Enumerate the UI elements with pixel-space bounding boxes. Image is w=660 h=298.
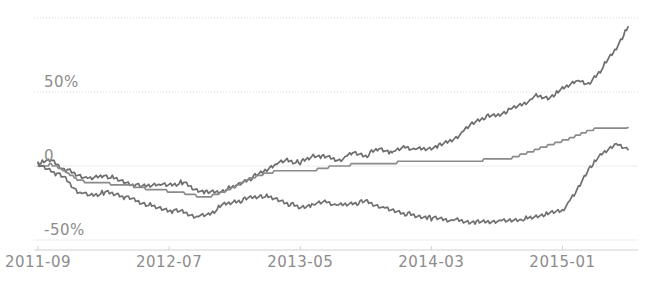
series-lines: [38, 27, 628, 224]
x-axis-line: [34, 246, 638, 250]
gridlines: [34, 18, 638, 240]
y-tick-label: 0: [44, 147, 54, 165]
series-line-2: [38, 128, 628, 197]
x-tick-label: 2013-05: [267, 253, 333, 271]
x-tick-label: 2012-07: [136, 253, 202, 271]
chart-container: 50%0-50% 2011-092012-072013-052014-03201…: [0, 0, 660, 298]
y-tick-label: -50%: [44, 221, 85, 239]
x-tick-label: 2015-01: [529, 253, 595, 271]
x-tick-label: 2014-03: [398, 253, 464, 271]
y-tick-label: 50%: [44, 73, 79, 91]
series-line-3: [38, 144, 628, 224]
series-line-1: [38, 27, 628, 194]
x-tick-label: 2011-09: [5, 253, 71, 271]
